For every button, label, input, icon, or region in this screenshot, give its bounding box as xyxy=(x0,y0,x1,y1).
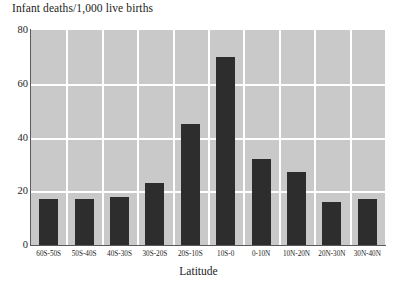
bars-layer xyxy=(31,30,385,245)
y-tick-label: 80 xyxy=(2,25,28,35)
bar xyxy=(252,159,271,245)
x-axis-line xyxy=(30,245,386,246)
x-tick-label: 30S-20S xyxy=(137,249,172,259)
bar xyxy=(216,57,235,245)
x-tick-label: 40S-30S xyxy=(102,249,137,259)
x-tick-label: 60S-50S xyxy=(31,249,66,259)
x-tick-label: 20S-10S xyxy=(173,249,208,259)
x-tick-label: 0-10N xyxy=(243,249,278,259)
bar-chart-figure: Infant deaths/1,000 live births 80 60 40… xyxy=(0,0,397,286)
bar xyxy=(145,183,164,245)
y-tick-label: 60 xyxy=(2,79,28,89)
x-tick-label: 10S-0 xyxy=(208,249,243,259)
bar xyxy=(358,199,377,245)
y-axis-line xyxy=(30,29,31,246)
y-axis-tick-labels: 80 60 40 20 0 xyxy=(0,30,28,245)
x-tick-label: 10N-20N xyxy=(279,249,314,259)
bar xyxy=(39,199,58,245)
bar xyxy=(181,124,200,245)
x-tick-label: 30N-40N xyxy=(350,249,385,259)
y-tick-label: 0 xyxy=(2,240,28,250)
x-axis-tick-labels: 60S-50S50S-40S40S-30S30S-20S20S-10S10S-0… xyxy=(31,249,385,263)
chart-title: Infant deaths/1,000 live births xyxy=(12,2,153,14)
plot-area xyxy=(31,30,385,245)
x-axis-title: Latitude xyxy=(0,265,397,277)
bar xyxy=(110,197,129,245)
y-tick-label: 40 xyxy=(2,133,28,143)
bar xyxy=(287,172,306,245)
x-tick-label: 50S-40S xyxy=(66,249,101,259)
bar xyxy=(322,202,341,245)
bar xyxy=(75,199,94,245)
y-tick-label: 20 xyxy=(2,186,28,196)
x-tick-label: 20N-30N xyxy=(314,249,349,259)
